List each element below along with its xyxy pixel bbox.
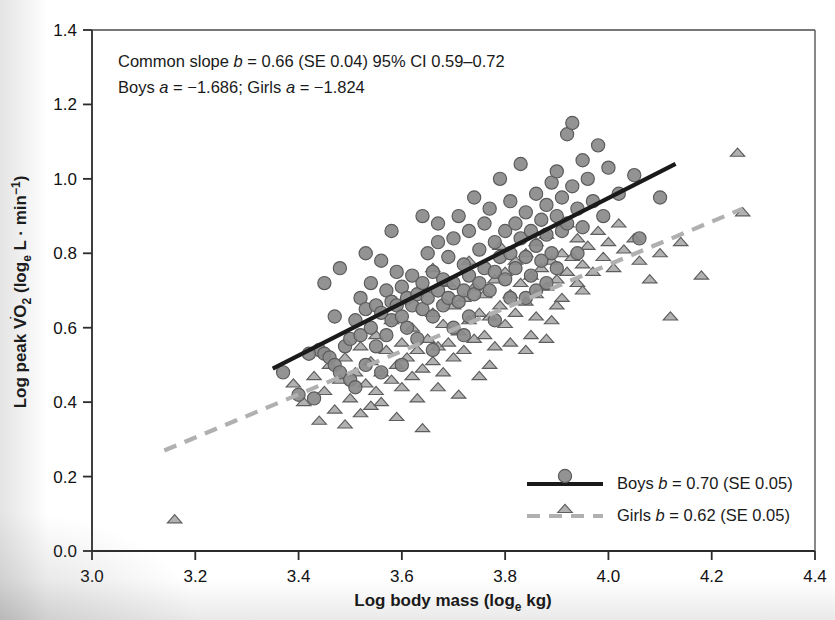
data-point-circle [390,265,403,278]
scatter-plot: 0.00.20.40.60.81.01.21.4 3.03.23.43.63.8… [0,0,835,620]
data-point-circle [576,221,589,234]
y-tick-label: 0.6 [53,319,77,338]
data-point-circle [597,209,610,222]
data-point-circle [318,276,331,289]
data-point-circle [602,161,615,174]
data-point-circle [416,209,429,222]
data-point-circle [499,273,512,286]
legend-label: Girls b = 0.62 (SE 0.05) [617,506,790,524]
data-point-circle [452,209,465,222]
data-point-circle [592,139,605,152]
data-point-circle [473,243,486,256]
data-point-circle [307,392,320,405]
data-point-circle [535,213,548,226]
data-point-circle [328,310,341,323]
data-point-circle [571,247,584,260]
data-point-circle [509,262,522,275]
data-point-circle [633,232,646,245]
x-tick-label: 3.8 [493,567,517,586]
data-point-circle [431,236,444,249]
x-tick-label: 4.4 [803,567,827,586]
data-point-circle [524,269,537,282]
data-point-circle [653,191,666,204]
x-tick-label: 4.2 [700,567,724,586]
y-tick-label: 1.2 [53,95,77,114]
data-point-circle [462,224,475,237]
data-point-circle [550,165,563,178]
data-point-circle [421,247,434,260]
data-point-circle [349,381,362,394]
x-tick-label: 3.0 [80,567,104,586]
data-point-circle [550,262,563,275]
x-tick-label: 3.2 [183,567,207,586]
x-tick-label: 4.0 [597,567,621,586]
data-point-circle [380,329,393,342]
annotation-line-1: Common slope b = 0.66 (SE 0.04) 95% CI 0… [118,52,505,70]
y-tick-label: 1.0 [53,170,77,189]
data-point-circle [478,217,491,230]
data-point-circle [426,343,439,356]
data-point-circle [628,169,641,182]
data-point-circle [359,247,372,260]
data-point-circle [447,232,460,245]
figure-container: 0.00.20.40.60.81.01.21.4 3.03.23.43.63.8… [0,0,835,620]
data-point-circle [375,254,388,267]
data-point-circle [483,284,496,297]
data-point-circle [375,366,388,379]
legend-label: Boys b = 0.70 (SE 0.05) [617,474,793,492]
x-tick-label: 3.4 [287,567,311,586]
data-point-circle [519,206,532,219]
data-point-circle [442,250,455,263]
data-point-circle [566,116,579,129]
data-point-circle [493,172,506,185]
annotation-line-2: Boys a = −1.686; Girls a = −1.824 [118,78,365,96]
data-point-circle [369,340,382,353]
data-point-circle [416,276,429,289]
data-point-circle [530,187,543,200]
y-tick-label: 0.8 [53,244,77,263]
data-point-circle [576,154,589,167]
data-point-circle [566,180,579,193]
data-point-circle [431,217,444,230]
data-point-circle [581,172,594,185]
data-point-circle [509,217,522,230]
data-point-circle [468,191,481,204]
data-point-circle [555,191,568,204]
data-point-circle [530,239,543,252]
data-point-circle [385,224,398,237]
data-point-circle [504,195,517,208]
data-point-circle [545,247,558,260]
data-point-circle [540,198,553,211]
y-tick-label: 0.4 [53,393,77,412]
data-point-circle [558,469,571,482]
data-point-circle [483,202,496,215]
data-point-circle [364,276,377,289]
data-point-circle [426,310,439,323]
data-point-circle [333,262,346,275]
data-point-circle [519,250,532,263]
y-tick-label: 0.2 [53,468,77,487]
x-tick-label: 3.6 [390,567,414,586]
y-tick-label: 1.4 [53,21,77,40]
data-point-circle [395,358,408,371]
data-point-circle [488,236,501,249]
data-point-circle [400,321,413,334]
y-tick-label: 0.0 [53,542,77,561]
data-point-circle [514,157,527,170]
